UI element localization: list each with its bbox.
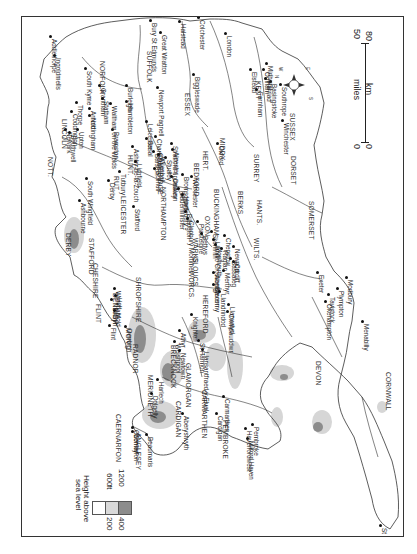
town-marker-icon bbox=[345, 276, 348, 279]
county-label: LEICESTER bbox=[119, 196, 126, 234]
town-marker-icon bbox=[53, 54, 56, 57]
town-label: Winchester bbox=[283, 123, 289, 155]
town-label: Waltham on the Wolds bbox=[111, 106, 117, 169]
county-label: SHROPSHIRE bbox=[134, 277, 141, 323]
town-marker-icon bbox=[181, 412, 184, 415]
town-marker-icon bbox=[98, 84, 101, 87]
town-marker-icon bbox=[197, 339, 200, 342]
town-marker-icon bbox=[85, 177, 88, 180]
legend-title-2: sea level bbox=[74, 479, 82, 511]
town-marker-icon bbox=[178, 329, 181, 332]
town-label: Southrope bbox=[281, 87, 287, 116]
town-label: Bettws bbox=[202, 236, 208, 255]
county-label: NORTHAMPTON bbox=[159, 187, 166, 241]
town-marker-icon bbox=[150, 392, 153, 395]
scale-km-label: km bbox=[364, 83, 374, 95]
town-marker-icon bbox=[192, 73, 195, 76]
county-label: CAERNARFON bbox=[114, 414, 121, 462]
town-marker-icon bbox=[49, 35, 52, 38]
town-label: Basal bbox=[147, 141, 153, 157]
town-label: Mold bbox=[115, 313, 121, 327]
scale-km-0: 0 bbox=[364, 144, 374, 149]
town-marker-icon bbox=[229, 257, 232, 260]
town-marker-icon bbox=[70, 110, 73, 113]
county-label: FLINT bbox=[94, 304, 101, 323]
town-label: Colchester bbox=[199, 20, 205, 50]
legend-m-200: 200 bbox=[105, 517, 114, 530]
town-label: Farnham bbox=[257, 92, 263, 117]
town-label: Tutbury bbox=[120, 174, 126, 195]
town-marker-icon bbox=[170, 142, 173, 145]
county-label: DERBY bbox=[64, 233, 71, 257]
map-frame: W E N S 50 80 miles km 0 0 Height above … bbox=[21, 16, 404, 537]
scale-km-80: 80 bbox=[364, 31, 374, 41]
legend-ft-1200: 1200 bbox=[117, 469, 126, 487]
town-marker-icon bbox=[181, 173, 184, 176]
town-label: Nottingham bbox=[90, 118, 96, 150]
town-label: Ingoldmells bbox=[55, 58, 61, 90]
county-label: WILTS. bbox=[252, 238, 259, 261]
town-marker-icon bbox=[324, 300, 327, 303]
town-label: Worcester bbox=[192, 179, 198, 208]
county-label: DEVON bbox=[314, 361, 321, 385]
town-marker-icon bbox=[134, 160, 137, 163]
town-label: Flint bbox=[110, 328, 116, 340]
town-label: Carmarthen bbox=[224, 399, 230, 432]
town-label: Dolgelly bbox=[152, 396, 158, 418]
county-label: CARDIGAN bbox=[174, 401, 181, 437]
town-marker-icon bbox=[327, 293, 330, 296]
town-marker-icon bbox=[78, 199, 81, 202]
town-marker-icon bbox=[265, 62, 268, 65]
town-marker-icon bbox=[246, 437, 249, 440]
town-marker-icon bbox=[110, 298, 113, 301]
town-marker-icon bbox=[184, 210, 187, 213]
town-marker-icon bbox=[186, 217, 189, 220]
town-marker-icon bbox=[226, 310, 229, 313]
town-label: Great Wratton bbox=[161, 35, 167, 74]
town-label: Lichfield bbox=[136, 164, 142, 187]
town-marker-icon bbox=[227, 303, 230, 306]
town-label: South Kyme bbox=[86, 71, 92, 105]
compass-w: W bbox=[278, 67, 283, 71]
town-label: Southwell bbox=[70, 135, 76, 162]
legend-swatch-low bbox=[92, 501, 106, 515]
town-marker-icon bbox=[125, 84, 128, 87]
town-marker-icon bbox=[249, 68, 252, 71]
county-label: SOMERSET bbox=[307, 201, 314, 240]
town-label: Tavistock bbox=[329, 297, 335, 323]
town-label: Hambleton bbox=[127, 104, 133, 134]
town-label: South Wingfield bbox=[87, 181, 93, 225]
town-marker-icon bbox=[224, 32, 227, 35]
town-marker-icon bbox=[153, 167, 156, 170]
legend-ft-600: 600 bbox=[105, 473, 114, 486]
town-marker-icon bbox=[109, 102, 112, 105]
town-marker-icon bbox=[159, 31, 162, 34]
town-marker-icon bbox=[361, 320, 364, 323]
town-marker-icon bbox=[124, 325, 127, 328]
town-marker-icon bbox=[76, 128, 79, 131]
town-label: Bromsgrove bbox=[183, 177, 189, 211]
town-marker-icon bbox=[125, 100, 128, 103]
town-marker-icon bbox=[232, 245, 235, 248]
town-label: Statham bbox=[103, 101, 109, 124]
town-marker-icon bbox=[210, 230, 213, 233]
town-label: Midhurst bbox=[267, 66, 273, 90]
legend-swatch-mid bbox=[105, 501, 119, 515]
town-marker-icon bbox=[190, 175, 193, 178]
town-label: Menabilly bbox=[363, 324, 369, 351]
town-label: Solihull bbox=[155, 171, 161, 191]
compass-e: E bbox=[305, 67, 310, 70]
county-label: BERKS. bbox=[236, 191, 243, 216]
town-label: Newtown bbox=[180, 353, 186, 379]
town-marker-icon bbox=[157, 153, 160, 156]
town-marker-icon bbox=[118, 170, 121, 173]
town-label: Ashbourne bbox=[80, 203, 86, 233]
town-marker-icon bbox=[336, 287, 339, 290]
town-marker-icon bbox=[173, 340, 176, 343]
town-label: Exeter bbox=[318, 275, 324, 293]
town-marker-icon bbox=[108, 324, 111, 327]
town-label: Modbury bbox=[347, 280, 353, 305]
town-label: Cleobury Mortimer bbox=[188, 221, 194, 273]
town-marker-icon bbox=[316, 271, 319, 274]
town-marker-icon bbox=[88, 107, 91, 110]
